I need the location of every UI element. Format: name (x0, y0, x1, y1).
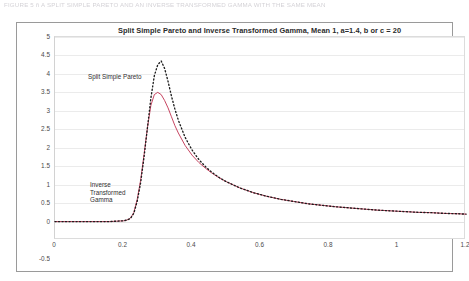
x-axis-tick-label: 0.4 (187, 241, 196, 249)
y-axis-tick-label: 3 (26, 106, 50, 113)
x-axis-tick-label: 0.8 (324, 241, 333, 249)
x-axis-ticks: 00.20.40.60.811.2 (54, 241, 465, 253)
figure-frame: Split Simple Pareto and Inverse Transfor… (16, 22, 453, 272)
x-axis-tick-label: 0 (52, 241, 56, 249)
x-axis-tick-label: 1.2 (461, 241, 469, 249)
y-axis-tick-label: 2 (26, 143, 50, 150)
y-axis-tick-label: 0 (26, 217, 50, 224)
y-axis-tick-minus-half: -0.5 (23, 255, 50, 261)
x-axis-tick-label: 0.2 (118, 241, 127, 249)
x-axis-tick-label: 1 (395, 241, 399, 249)
y-axis-ticks: 54.543.532.521.510.50 (23, 36, 50, 239)
y-axis-tick-label: 0.5 (26, 199, 50, 206)
y-axis-tick-label: 4 (26, 69, 50, 76)
x-axis-tick-label: 0.6 (255, 241, 264, 249)
y-axis-tick-label: 2.5 (26, 125, 50, 132)
scanned-header-line: FIGURE 5 ñ A SPLIT SIMPLE PARETO AND AN … (0, 0, 469, 9)
y-axis-tick-label: 1 (26, 180, 50, 187)
chart-title: Split Simple Pareto and Inverse Transfor… (54, 26, 465, 36)
y-axis-tick-label: 5 (26, 33, 50, 40)
annotation-split-simple-pareto: Split Simple Pareto (88, 73, 142, 81)
chart-plot-area: Split Simple Pareto Inverse Transformed … (54, 36, 465, 239)
y-axis-tick-label: 4.5 (26, 51, 50, 58)
annotation-itg-line-1: Inverse (90, 181, 125, 189)
annotation-inverse-transformed-gamma: Inverse Transformed Gamma (90, 181, 125, 204)
annotation-itg-line-2: Transformed (90, 189, 125, 197)
chart-series-layer (55, 37, 466, 240)
annotation-itg-line-3: Gamma (90, 196, 125, 204)
y-axis-tick-label: 1.5 (26, 162, 50, 169)
y-axis-tick-label: 3.5 (26, 88, 50, 95)
